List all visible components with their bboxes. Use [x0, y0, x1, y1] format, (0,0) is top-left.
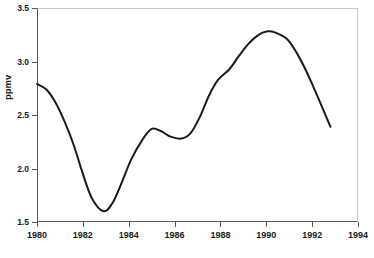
- x-tick-mark: [175, 222, 176, 227]
- x-tick-mark: [37, 222, 38, 227]
- x-tick-mark: [358, 222, 359, 227]
- x-tick-mark: [83, 222, 84, 227]
- x-tick-mark: [129, 222, 130, 227]
- x-tick-mark: [266, 222, 267, 227]
- x-tick-mark: [312, 222, 313, 227]
- x-tick-mark: [220, 222, 221, 227]
- y-axis-title: ppmv: [2, 75, 13, 100]
- chart-container: 1.52.02.53.03.5 198019821984198619881990…: [0, 0, 374, 258]
- line-series-svg: [37, 8, 358, 222]
- x-tick-label: 1994: [328, 230, 374, 240]
- line-series-path: [37, 31, 330, 211]
